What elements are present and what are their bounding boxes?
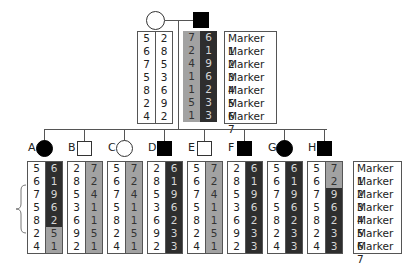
marker-label: Marker 5: [357, 214, 398, 227]
allele-value: 1: [206, 240, 222, 253]
allele-value: 6: [166, 162, 182, 175]
allele-value: 6: [228, 214, 245, 227]
allele-value: 6: [326, 201, 342, 214]
allele-value: 4: [183, 57, 200, 70]
allele-value: 6: [46, 201, 62, 214]
marker-label: Marker 4: [357, 201, 398, 214]
father-symbol: [193, 12, 209, 28]
allele-value: 6: [108, 175, 125, 188]
allele-value: 3: [286, 227, 302, 240]
allele-value: 4: [126, 188, 142, 201]
father-allele-column-2: 6196233: [200, 31, 217, 123]
allele-value: 8: [156, 45, 172, 58]
allele-value: 5: [68, 188, 85, 201]
allele-value: 4: [268, 240, 285, 253]
allele-value: 4: [28, 240, 45, 253]
marker-label: Marker 7: [357, 240, 398, 253]
marker-labels-top: Marker 1Marker 2Marker 3Marker 4Marker 5…: [224, 31, 277, 124]
allele-value: 3: [286, 240, 302, 253]
allele-column-1: 5675824: [308, 162, 325, 253]
allele-value: 2: [156, 32, 172, 45]
allele-value: 6: [148, 214, 165, 227]
allele-value: 6: [68, 214, 85, 227]
offspring-b-symbol: [77, 141, 92, 156]
allele-column-1: 2853692: [68, 162, 85, 253]
marker-label: Marker 2: [357, 175, 398, 188]
allele-value: 1: [246, 175, 262, 188]
allele-value: 6: [28, 175, 45, 188]
allele-value: 3: [200, 96, 217, 109]
allele-value: 2: [188, 227, 205, 240]
offspring-g-symbol: [276, 140, 293, 157]
allele-value: 8: [268, 214, 285, 227]
allele-value: 1: [126, 240, 142, 253]
allele-value: 8: [148, 175, 165, 188]
allele-value: 4: [138, 110, 155, 123]
allele-value: 4: [308, 240, 325, 253]
allele-value: 5: [148, 188, 165, 201]
allele-value: 2: [138, 97, 155, 110]
allele-value: 8: [108, 214, 125, 227]
allele-column-1: 5675824: [28, 162, 45, 253]
offspring-label: D: [148, 141, 156, 154]
allele-column-1: 5675824: [268, 162, 285, 253]
marker-label: Marker 7: [228, 110, 273, 123]
offspring-drop-line: [244, 129, 245, 141]
offspring-h-symbol: [317, 141, 332, 156]
allele-value: 2: [268, 227, 285, 240]
marker-region-brace: [14, 184, 28, 234]
offspring-a-symbol: [36, 140, 53, 157]
allele-value: 3: [246, 227, 262, 240]
allele-value: 5: [28, 162, 45, 175]
allele-value: 7: [183, 31, 200, 44]
marker-label: Marker 3: [357, 188, 398, 201]
mother-allele-column-2: 2853692: [155, 32, 172, 123]
descent-line: [178, 20, 179, 129]
allele-value: 2: [148, 240, 165, 253]
allele-column-2: 6196233: [285, 162, 302, 253]
marker-label: Marker 6: [357, 227, 398, 240]
allele-column-2: 7241151: [125, 162, 142, 253]
allele-value: 3: [326, 240, 342, 253]
offspring-marker-box: 28536926196233: [227, 161, 263, 254]
allele-value: 1: [126, 201, 142, 214]
allele-value: 1: [86, 240, 102, 253]
allele-value: 7: [126, 162, 142, 175]
allele-value: 3: [166, 240, 182, 253]
offspring-label: C: [108, 141, 116, 154]
allele-value: 2: [200, 83, 217, 96]
allele-value: 2: [206, 175, 222, 188]
allele-value: 2: [46, 214, 62, 227]
allele-value: 1: [206, 201, 222, 214]
allele-value: 7: [206, 162, 222, 175]
father-allele-column-1: 7241151: [183, 31, 200, 123]
allele-value: 8: [138, 84, 155, 97]
allele-value: 3: [200, 109, 217, 122]
allele-value: 6: [308, 175, 325, 188]
allele-value: 6: [268, 175, 285, 188]
allele-value: 1: [46, 240, 62, 253]
allele-value: 3: [326, 227, 342, 240]
allele-value: 2: [86, 175, 102, 188]
marriage-line: [165, 20, 193, 21]
allele-value: 6: [246, 201, 262, 214]
allele-value: 4: [86, 188, 102, 201]
father-marker-box: 7241151 6196233: [183, 31, 217, 123]
allele-value: 5: [206, 227, 222, 240]
allele-value: 5: [46, 227, 62, 240]
allele-value: 7: [138, 58, 155, 71]
offspring-label: A: [28, 141, 36, 154]
allele-value: 2: [68, 240, 85, 253]
allele-column-2: 7241151: [205, 162, 222, 253]
allele-value: 2: [156, 110, 172, 123]
marker-label: Marker 4: [228, 71, 273, 84]
allele-value: 6: [286, 201, 302, 214]
marker-label: Marker 5: [228, 84, 273, 97]
allele-value: 2: [108, 227, 125, 240]
allele-value: 9: [246, 188, 262, 201]
allele-value: 5: [86, 227, 102, 240]
offspring-label: B: [68, 141, 76, 154]
allele-value: 3: [156, 71, 172, 84]
allele-value: 2: [326, 175, 342, 188]
allele-value: 2: [148, 162, 165, 175]
